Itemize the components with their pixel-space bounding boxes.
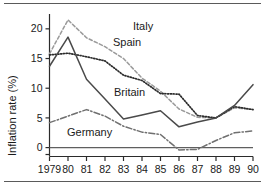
x-tick-label: 1979 <box>38 163 62 175</box>
x-axis-tick-labels: 19798081828384858687888990 <box>38 163 259 175</box>
bottom-divider-rule <box>4 181 261 182</box>
y-axis-title: Inflation rate (%) <box>6 75 18 156</box>
line-chart-svg: Inflation rate (%) 05101520 197980818283… <box>0 6 265 178</box>
series-line-britain <box>50 37 254 127</box>
x-tick-label: 88 <box>210 163 222 175</box>
y-tick-label: 20 <box>31 22 43 34</box>
x-tick-label: 89 <box>229 163 241 175</box>
italy-label: Italy <box>133 20 154 32</box>
spain-label: Spain <box>113 36 141 48</box>
germany-label: Germany <box>67 126 113 138</box>
y-tick-label: 0 <box>37 141 43 153</box>
x-tick-label: 82 <box>99 163 111 175</box>
x-tick-label: 80 <box>62 163 74 175</box>
y-tick-label: 15 <box>31 52 43 64</box>
x-axis-tick-marks <box>50 157 254 162</box>
x-tick-label: 84 <box>136 163 148 175</box>
y-axis-tick-labels: 05101520 <box>31 22 43 153</box>
x-tick-label: 90 <box>247 163 259 175</box>
series-line-italy <box>50 20 254 118</box>
x-tick-label: 83 <box>118 163 130 175</box>
x-tick-label: 85 <box>155 163 167 175</box>
britain-label: Britain <box>114 86 145 98</box>
chart-figure: Inflation rate (%) 05101520 197980818283… <box>0 0 265 188</box>
top-divider-rule <box>4 3 261 4</box>
plot-area-wrapper: Inflation rate (%) 05101520 197980818283… <box>0 6 265 178</box>
series-annotations: ItalySpainBritainGermany <box>67 20 154 138</box>
x-tick-label: 81 <box>81 163 93 175</box>
x-tick-label: 86 <box>173 163 185 175</box>
y-tick-label: 5 <box>37 112 43 124</box>
y-tick-label: 10 <box>31 82 43 94</box>
x-tick-label: 87 <box>192 163 204 175</box>
